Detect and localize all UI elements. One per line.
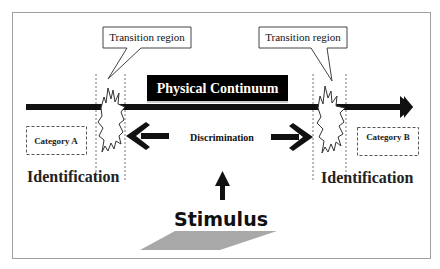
discrimination-label: Discrimination xyxy=(190,132,254,143)
physical-continuum-title: Physical Continuum xyxy=(147,75,288,103)
callout-left-label: Transition region xyxy=(109,31,185,43)
categorical-perception-diagram: Transition region Transition region Phys… xyxy=(0,0,440,269)
identification-left-label: Identification xyxy=(27,168,120,185)
callout-right-label: Transition region xyxy=(265,31,341,43)
category-a-label: Category A xyxy=(34,136,78,146)
title-box-label: Physical Continuum xyxy=(157,81,279,96)
identification-right-label: Identification xyxy=(321,169,414,186)
stimulus-label: Stimulus xyxy=(174,208,268,230)
category-b-label: Category B xyxy=(366,132,410,142)
